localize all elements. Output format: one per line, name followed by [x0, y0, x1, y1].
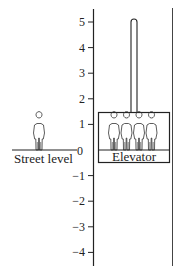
- elevator-label: Elevator: [112, 149, 157, 164]
- tick-label-neg4: −4: [72, 245, 85, 259]
- tick-label-neg1: −1: [72, 169, 85, 183]
- axis-ticks: [88, 22, 94, 252]
- elevator-number-line-diagram: 5 4 3 2 1 0 −1 −2 −3 −4 Street level Ele…: [0, 0, 182, 278]
- tick-label-1: 1: [79, 117, 85, 131]
- tick-label-4: 4: [79, 41, 85, 55]
- tick-label-neg2: −2: [72, 194, 85, 208]
- tick-label-3: 3: [79, 66, 85, 80]
- tick-label-0: 0: [77, 144, 83, 158]
- axis-tick-labels: 5 4 3 2 1 0 −1 −2 −3 −4: [72, 15, 85, 259]
- tick-label-5: 5: [79, 15, 85, 29]
- tick-label-2: 2: [79, 92, 85, 106]
- street-level-label: Street level: [14, 151, 73, 166]
- street-person-icon: [34, 112, 45, 150]
- elevator-cable: [131, 19, 137, 112]
- tick-label-neg3: −3: [72, 220, 85, 234]
